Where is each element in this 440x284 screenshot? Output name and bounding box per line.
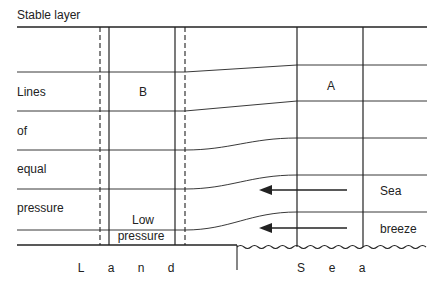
sea-column-label-a: A [327, 79, 335, 93]
land-letter-n: n [138, 261, 145, 275]
sea-breeze-diagram [0, 0, 440, 284]
sea-letter-e: e [329, 261, 336, 275]
low-pressure-label-line1: Low [132, 213, 154, 227]
stable-layer-label: Stable layer [17, 8, 80, 22]
left-label-of: of [17, 124, 27, 138]
sea-surface-waves [237, 246, 426, 249]
isobar-1 [17, 65, 427, 72]
isobar-5 [17, 212, 427, 230]
land-letter-l: L [78, 261, 85, 275]
sea-breeze-label-breeze: breeze [380, 222, 417, 236]
isobar-2 [17, 101, 427, 111]
left-label-lines: Lines [17, 85, 46, 99]
low-pressure-label-line2: pressure [118, 229, 165, 243]
left-label-pressure: pressure [17, 201, 64, 215]
isobar-4 [17, 175, 427, 189]
sea-breeze-label-sea: Sea [380, 184, 401, 198]
land-letter-a: a [108, 261, 115, 275]
sea-letter-s: S [297, 261, 305, 275]
arrow-left-icon [259, 223, 272, 233]
sea-letter-a: a [359, 261, 366, 275]
arrow-left-icon [259, 185, 272, 195]
isobar-3 [17, 138, 427, 150]
land-column-label-b: B [139, 85, 147, 99]
left-label-equal: equal [17, 162, 46, 176]
land-letter-d: d [168, 261, 175, 275]
